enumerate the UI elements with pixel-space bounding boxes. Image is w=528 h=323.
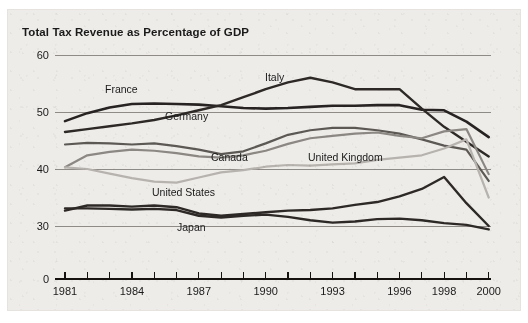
line-chart: 030405060 198119841987199019931996199820… [8, 10, 520, 310]
y-axis-label-group: 030405060 [37, 49, 49, 285]
y-tick-label-30: 30 [37, 220, 49, 232]
series-line-france [65, 103, 489, 137]
series-label-germany: Germany [165, 110, 209, 122]
y-tick-label-0: 0 [43, 273, 49, 285]
y-tick-label-50: 50 [37, 106, 49, 118]
chart-title: Total Tax Revenue as Percentage of GDP [22, 26, 249, 38]
x-tick-label-1998: 1998 [432, 285, 456, 297]
series-label-italy: Italy [265, 71, 285, 83]
series-line-united-kingdom [65, 129, 489, 174]
series-line-united-states [65, 177, 489, 226]
series-label-united-kingdom: United Kingdom [308, 151, 383, 163]
x-tick-label-1993: 1993 [320, 285, 344, 297]
series-label-japan: Japan [177, 221, 206, 233]
figure-container: 030405060 198119841987199019931996199820… [0, 0, 528, 323]
series-group [65, 78, 489, 230]
series-label-canada: Canada [211, 151, 248, 163]
x-tick-label-1984: 1984 [120, 285, 144, 297]
x-tick-label-1990: 1990 [253, 285, 277, 297]
y-tick-label-40: 40 [37, 163, 49, 175]
series-label-united-states: United States [152, 186, 215, 198]
chart-plate: 030405060 198119841987199019931996199820… [8, 10, 520, 310]
series-label-france: France [105, 83, 138, 95]
x-axis-group [55, 272, 491, 279]
x-axis-label-group: 19811984198719901993199619982000 [53, 285, 501, 297]
y-tick-label-60: 60 [37, 49, 49, 61]
x-tick-label-2000: 2000 [476, 285, 500, 297]
x-tick-label-1981: 1981 [53, 285, 77, 297]
x-tick-label-1996: 1996 [387, 285, 411, 297]
x-tick-label-1987: 1987 [187, 285, 211, 297]
